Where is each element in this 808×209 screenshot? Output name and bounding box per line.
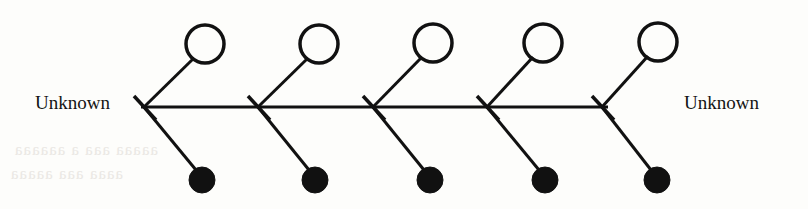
union-4-to-female-4-line (487, 57, 533, 107)
union-2-to-female-2-line (258, 58, 308, 107)
pedigree-group-1 (134, 25, 224, 193)
female-4-open-circle (524, 24, 562, 62)
affected-5-filled-circle (644, 167, 670, 193)
female-5-open-circle (639, 23, 677, 61)
female-2-open-circle (300, 25, 338, 63)
pedigree-diagram-page: aaaaa aaa a aaaaaa aaaa aaa aaaaa (0, 0, 808, 209)
union-1-to-female-1-line (144, 58, 194, 107)
union-5-to-female-5-line (602, 56, 648, 107)
affected-3-filled-circle (417, 167, 443, 193)
label-unknown-right: Unknown (684, 93, 759, 112)
affected-1-filled-circle (189, 167, 215, 193)
female-1-open-circle (186, 25, 224, 63)
pedigree-group-5 (592, 23, 677, 193)
affected-4-filled-circle (532, 167, 558, 193)
label-unknown-left: Unknown (35, 93, 110, 112)
affected-2-filled-circle (302, 167, 328, 193)
female-3-open-circle (414, 24, 452, 62)
union-3-to-female-3-line (373, 57, 422, 107)
pedigree-group-2 (248, 25, 338, 193)
